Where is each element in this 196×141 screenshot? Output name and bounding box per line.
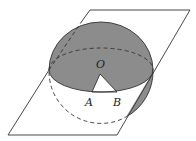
label-point-a: A [85, 97, 93, 108]
plane-edge-left-top [82, 10, 90, 21]
label-point-b: B [113, 97, 121, 108]
plane-edge-left-lower [8, 70, 49, 135]
label-center-o: O [96, 59, 105, 70]
diagram-canvas: O A B [0, 0, 196, 141]
